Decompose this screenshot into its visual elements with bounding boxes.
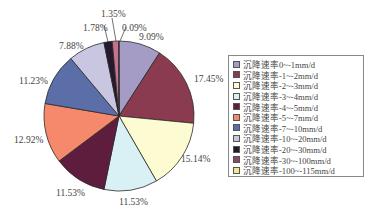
slice-value-label: 9.09% [139,33,164,43]
legend-swatch-icon [233,82,240,89]
slice-value-label: 12.92% [14,136,43,146]
slice-value-label: 1.78% [83,24,108,34]
legend-swatch-icon [233,146,240,153]
legend-swatch-icon [233,156,240,163]
leader-line [112,18,116,41]
legend-swatch-icon [233,135,240,142]
slice-value-label: 1.35% [101,10,126,20]
legend-item: 沉降速率-100~-115mm/d [233,165,363,176]
slice-value-label: 11.53% [56,189,85,199]
pie-chart [0,0,230,213]
legend-label: 沉降速率-100~-115mm/d [243,164,335,176]
legend-swatch-icon [233,93,240,100]
legend-swatch-icon [233,71,240,78]
slice-value-label: 7.88% [59,42,84,52]
legend-swatch-icon [233,103,240,110]
legend-swatch-icon [233,167,240,174]
legend-swatch-icon [233,114,240,121]
slice-value-label: 0.09% [122,24,147,34]
legend-swatch-icon [233,61,240,68]
slice-value-label: 17.45% [194,75,223,85]
legend: 沉降速率0~-1mm/d沉降速率-1~-2mm/d沉降速率-2~-3mm/d沉降… [228,55,364,177]
legend-swatch-icon [233,124,240,131]
slice-value-label: 11.23% [19,77,48,87]
slice-value-label: 15.14% [181,155,210,165]
slice-value-label: 11.53% [119,198,148,208]
pie-slices [44,41,194,191]
